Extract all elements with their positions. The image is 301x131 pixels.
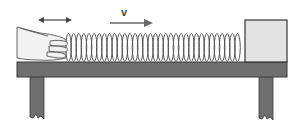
double-arrow-icon <box>38 17 72 23</box>
block <box>245 20 287 62</box>
spring <box>66 34 241 62</box>
table-top <box>17 62 287 77</box>
right-table-leg <box>259 76 273 120</box>
hand-icon <box>17 27 67 60</box>
left-table-leg <box>30 76 44 119</box>
spring-table-diagram <box>0 0 301 131</box>
table-legs <box>30 76 273 120</box>
velocity-arrow-icon <box>110 19 153 27</box>
velocity-label: v <box>121 6 127 18</box>
